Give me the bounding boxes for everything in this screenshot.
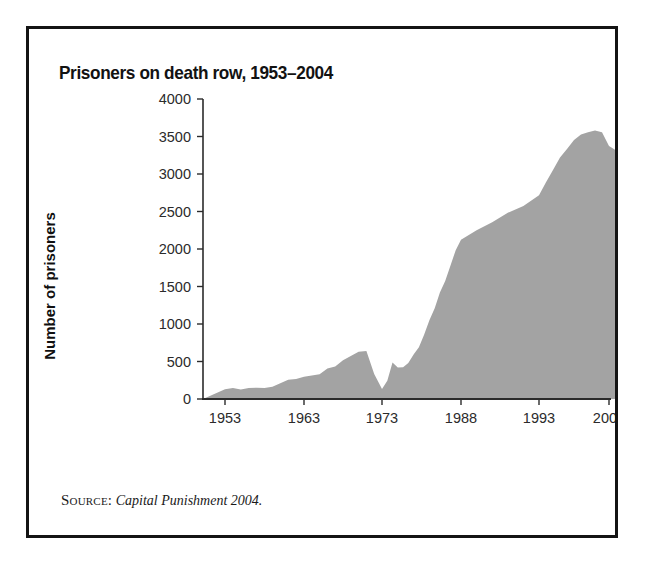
x-tick-label: 1993 <box>523 410 555 426</box>
x-tick-label: 1953 <box>209 410 241 426</box>
source-citation: Capital Punishment 2004. <box>116 493 263 508</box>
y-tick-label: 2000 <box>159 241 191 257</box>
y-axis-label: Number of prisoners <box>41 212 58 360</box>
y-tick-label: 3500 <box>159 129 191 145</box>
page-title: Prisoners on death row, 1953–2004 <box>59 62 333 84</box>
figure-frame: Prisoners on death row, 1953–2004 Number… <box>26 26 618 538</box>
x-tick-label: 1988 <box>445 410 477 426</box>
y-axis-ticks: 05001000150020002500300035004000 <box>159 91 203 407</box>
y-tick-label: 500 <box>167 354 191 370</box>
y-tick-label: 0 <box>183 391 191 407</box>
x-axis-ticks: 195319631973198819932003 <box>209 399 615 426</box>
y-tick-label: 4000 <box>159 91 191 107</box>
x-tick-label: 1973 <box>366 410 398 426</box>
y-tick-label: 1000 <box>159 316 191 332</box>
x-tick-label: 1963 <box>288 410 320 426</box>
source-label: Source: <box>61 492 112 508</box>
y-tick-label: 3000 <box>159 166 191 182</box>
y-tick-label: 2500 <box>159 204 191 220</box>
area-chart: Number of prisoners 05001000150020002500… <box>29 91 615 461</box>
chart-plot-area: Number of prisoners 05001000150020002500… <box>29 91 615 461</box>
x-tick-label: 2003 <box>593 410 615 426</box>
y-tick-label: 1500 <box>159 279 191 295</box>
source-note: Source: Capital Punishment 2004. <box>61 492 262 509</box>
y-axis-label-text: Number of prisoners <box>41 212 58 360</box>
area-series-fill <box>203 130 615 399</box>
